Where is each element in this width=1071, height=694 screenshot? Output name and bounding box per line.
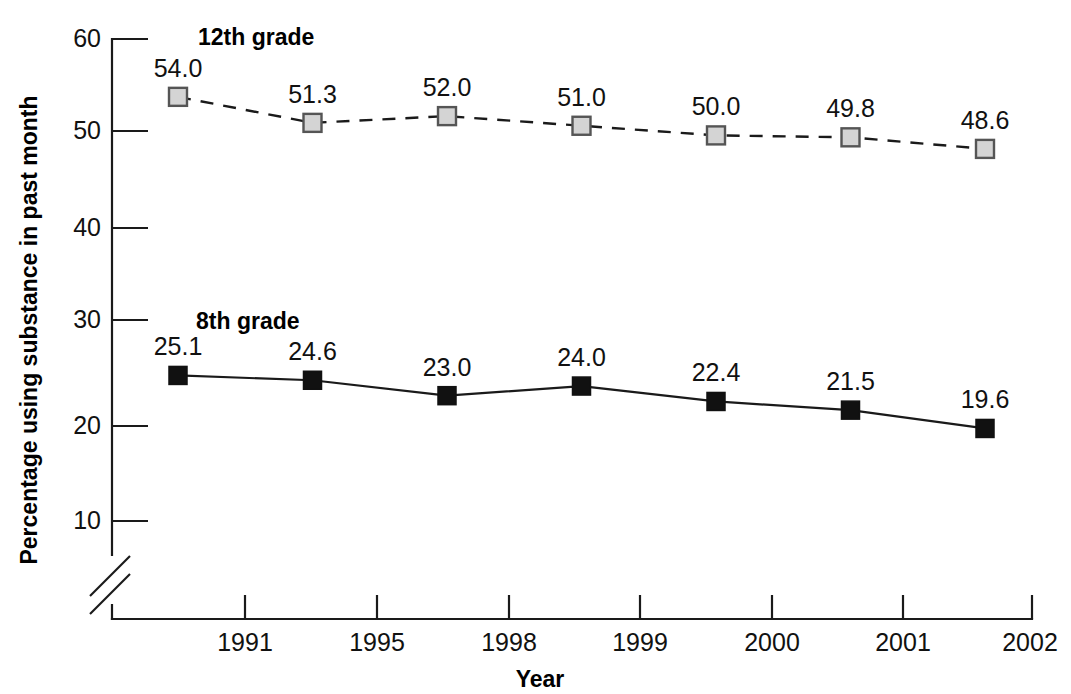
data-point-marker: [976, 140, 994, 158]
data-point-label: 51.3: [288, 80, 337, 108]
x-tick-label-2001: 2001: [875, 628, 931, 656]
chart-container: 60 50 40 30 20 10 1991 1995 1998: [0, 0, 1071, 694]
x-tick-label-2000: 2000: [744, 628, 800, 656]
data-point-marker: [573, 117, 591, 135]
data-point-label: 52.0: [423, 73, 472, 101]
axis-break-icon: [90, 556, 130, 614]
data-point-marker: [976, 419, 994, 437]
data-point-label: 24.6: [288, 337, 337, 365]
data-point-label: 51.0: [557, 83, 606, 111]
data-point-marker: [842, 128, 860, 146]
y-axis-tick-labels: 60 50 40 30 20 10: [73, 24, 101, 534]
y-tick-label-30: 30: [73, 305, 101, 333]
series-label-12th-grade: 12th grade: [198, 24, 314, 50]
x-axis-title: Year: [516, 666, 565, 692]
data-point-marker: [707, 392, 725, 410]
series-label-8th-grade: 8th grade: [196, 308, 300, 334]
data-point-marker: [438, 387, 456, 405]
data-point-marker: [304, 114, 322, 132]
y-axis-title: Percentage using substance in past month: [16, 95, 42, 564]
data-point-marker: [707, 126, 725, 144]
x-tick-label-1991: 1991: [217, 628, 273, 656]
x-axis-tick-labels: 1991 1995 1998 1999 2000 2001 2002: [217, 628, 1058, 656]
data-point-label: 23.0: [423, 353, 472, 381]
data-point-label: 21.5: [826, 367, 875, 395]
x-tick-label-2002: 2002: [1002, 628, 1058, 656]
data-point-label: 19.6: [961, 385, 1010, 413]
x-tick-label-1999: 1999: [612, 628, 668, 656]
data-point-label: 54.0: [154, 54, 203, 82]
data-point-label: 48.6: [961, 106, 1010, 134]
data-point-marker: [573, 377, 591, 395]
y-tick-label-40: 40: [73, 213, 101, 241]
series-8th-grade-value-labels: 25.124.623.024.022.421.519.6: [154, 332, 1010, 413]
data-point-label: 49.8: [826, 94, 875, 122]
x-tick-label-1995: 1995: [349, 628, 405, 656]
y-tick-label-50: 50: [73, 116, 101, 144]
y-axis-ticks: [112, 39, 148, 521]
series-8th-grade: 25.124.623.024.022.421.519.6 8th grade: [154, 308, 1010, 437]
y-tick-label-20: 20: [73, 411, 101, 439]
data-point-marker: [169, 366, 187, 384]
data-point-marker: [842, 401, 860, 419]
data-point-label: 24.0: [557, 343, 606, 371]
data-point-marker: [169, 88, 187, 106]
data-point-label: 22.4: [692, 358, 741, 386]
data-point-marker: [438, 107, 456, 125]
series-12th-grade: 54.051.352.051.050.049.848.6 12th grade: [154, 24, 1010, 158]
y-tick-label-10: 10: [73, 506, 101, 534]
x-tick-label-1998: 1998: [481, 628, 537, 656]
data-point-label: 50.0: [692, 92, 741, 120]
line-chart: 60 50 40 30 20 10 1991 1995 1998: [0, 0, 1071, 694]
y-tick-label-60: 60: [73, 24, 101, 52]
x-axis-ticks: [245, 595, 1032, 619]
data-point-label: 25.1: [154, 332, 203, 360]
data-point-marker: [304, 371, 322, 389]
